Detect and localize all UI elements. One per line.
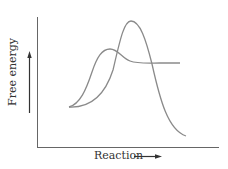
energy-diagram: Free energy Reaction — [0, 0, 228, 169]
y-axis-label: Free energy — [6, 66, 20, 106]
curve-uncatalyzed — [69, 21, 186, 136]
chart-canvas — [0, 0, 228, 169]
y-axis-arrow-icon — [27, 51, 31, 58]
x-axis-arrow-icon — [155, 154, 162, 158]
curve-catalyzed — [69, 49, 180, 107]
x-axis-label: Reaction — [94, 149, 143, 162]
